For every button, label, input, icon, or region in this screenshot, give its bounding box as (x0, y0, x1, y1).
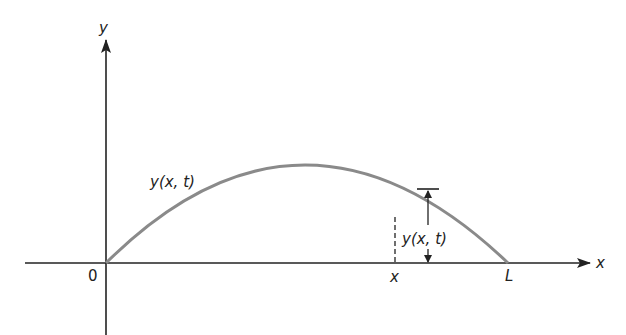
curve-label: y(x, t) (149, 173, 195, 191)
origin-label: 0 (88, 267, 98, 285)
point-x-label: x (389, 268, 399, 286)
x-axis-label: x (595, 254, 605, 272)
displacement-label: y(x, t) (401, 230, 447, 248)
end-label: L (505, 267, 513, 285)
y-axis-label: y (98, 19, 109, 37)
string-displacement-diagram: y x 0 L x y(x, t) y(x, t) (0, 0, 626, 335)
